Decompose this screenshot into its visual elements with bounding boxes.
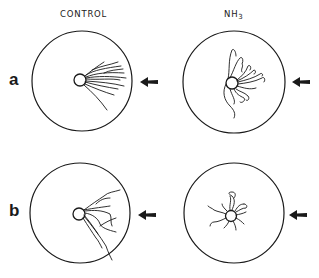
left-arrow-icon (140, 77, 158, 87)
dish-circle (30, 163, 130, 263)
left-arrow-icon (289, 210, 307, 220)
left-arrow-icon (292, 77, 310, 87)
panel-b-nh3 (184, 163, 284, 263)
source-spot (226, 211, 237, 222)
panel-b-control (30, 163, 130, 263)
figure-canvas (0, 0, 319, 278)
source-spot (74, 74, 86, 86)
panel-a-control (32, 31, 132, 131)
dish-circle (184, 163, 284, 263)
fiber-bundle (224, 49, 265, 118)
fiber-bundle (208, 192, 247, 230)
left-arrow-icon (138, 210, 156, 220)
panel-a-nh3 (183, 31, 285, 133)
dish-circle (32, 31, 132, 131)
fiber-bundle (84, 62, 126, 110)
